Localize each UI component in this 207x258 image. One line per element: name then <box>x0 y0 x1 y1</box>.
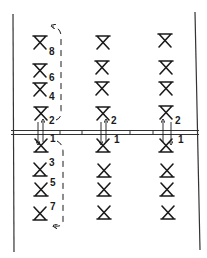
column-left: 8 6 4 2 1 3 5 7 <box>33 26 63 226</box>
label-3: 3 <box>49 157 55 168</box>
diagram-canvas: 8 6 4 2 1 3 5 7 2 1 <box>0 0 207 258</box>
label-4: 4 <box>49 91 55 102</box>
left-boundary-line <box>13 14 14 252</box>
label-2: 2 <box>111 115 117 126</box>
label-7: 7 <box>50 201 56 212</box>
label-2: 2 <box>175 115 181 126</box>
label-1: 1 <box>114 134 120 145</box>
label-1: 1 <box>178 134 184 145</box>
label-6: 6 <box>49 72 55 83</box>
label-2: 2 <box>49 115 55 126</box>
label-8: 8 <box>49 46 55 57</box>
label-1: 1 <box>50 133 56 144</box>
column-middle: 2 1 <box>95 36 120 219</box>
label-5: 5 <box>50 177 56 188</box>
lower-loop-arrow <box>55 141 63 226</box>
column-right: 2 1 <box>158 34 184 219</box>
